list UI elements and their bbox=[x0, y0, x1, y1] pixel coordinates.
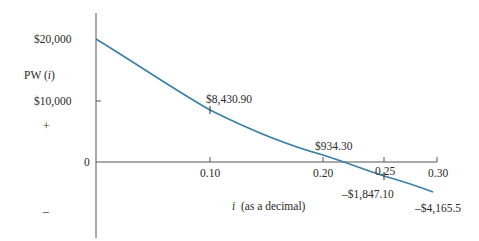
y-tick-label-20000: $20,000 bbox=[34, 34, 71, 46]
x-tick-label-0.25: 0.25 bbox=[375, 166, 395, 178]
x-tick-label-0.30: 0.30 bbox=[428, 168, 448, 180]
annotation-0.20: $934.30 bbox=[315, 141, 352, 153]
x-axis-label: i (as a decimal) bbox=[232, 201, 305, 213]
annotation-0.25: –$1,847.10 bbox=[342, 189, 394, 201]
negative-region-sign: – bbox=[43, 206, 49, 218]
y-tick-label-10000: $10,000 bbox=[34, 96, 71, 108]
y-axis-label: PW (i) bbox=[24, 70, 55, 82]
positive-region-sign: + bbox=[43, 121, 50, 133]
x-tick-label-0.10: 0.10 bbox=[200, 168, 220, 180]
annotation-0.10: $8,430.90 bbox=[206, 94, 252, 106]
annotation-0.30: –$4,165.5 bbox=[415, 203, 461, 215]
x-tick-label-0.20: 0.20 bbox=[313, 168, 333, 180]
y-tick-label-0: 0 bbox=[84, 157, 90, 169]
